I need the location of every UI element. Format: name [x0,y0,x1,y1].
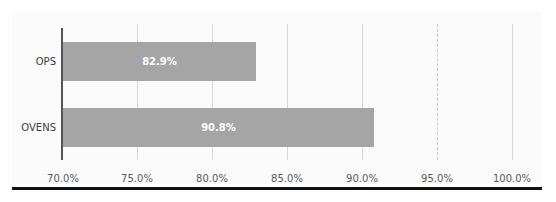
x-tick-70: 70.0% [47,173,79,184]
x-tick-100: 100.0% [493,173,531,184]
x-tick-90: 90.0% [346,173,378,184]
x-tick-85: 85.0% [271,173,303,184]
bar-ovens: 90.8% [63,108,374,147]
x-tick-95: 95.0% [421,173,453,184]
category-label-ops: OPS [36,56,56,67]
bar-ops: 82.9% [63,42,256,81]
gridline-95 [437,24,439,160]
bar-value-label: 90.8% [63,108,374,147]
x-tick-75: 75.0% [121,173,153,184]
chart-area [12,12,542,184]
bar-value-label: 82.9% [63,42,256,81]
category-label-ovens: OVENS [21,122,56,133]
gridline-100 [512,24,513,160]
x-tick-80: 80.0% [196,173,228,184]
bottom-divider [12,187,542,190]
